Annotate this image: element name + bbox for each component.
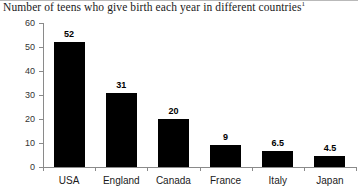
y-axis-tick [39, 71, 43, 72]
y-axis-tick [39, 119, 43, 120]
bar-value-label: 4.5 [324, 143, 337, 153]
title-footnote-marker: 1 [302, 0, 306, 8]
y-axis-tick-label: 0 [30, 162, 35, 172]
category-label: Italy [269, 175, 287, 186]
bar [106, 93, 137, 167]
bar-value-label: 6.5 [271, 138, 284, 148]
y-axis-tick [39, 23, 43, 24]
bar-value-label: 52 [64, 29, 74, 39]
category-label: Canada [156, 175, 191, 186]
chart-title-text: Number of teens who give birth each year… [3, 1, 302, 13]
x-axis-tick [200, 167, 201, 171]
category-label: France [210, 175, 241, 186]
bar-value-label: 20 [168, 106, 178, 116]
y-axis-tick [39, 143, 43, 144]
x-axis-tick [147, 167, 148, 171]
y-axis-tick-label: 10 [25, 138, 35, 148]
category-label: USA [59, 175, 80, 186]
x-axis-tick [304, 167, 305, 171]
chart-figure: Number of teens who give birth each year… [0, 0, 358, 191]
bar [158, 119, 189, 167]
y-axis-tick-label: 60 [25, 18, 35, 28]
bar [54, 42, 85, 167]
y-axis-line [43, 23, 44, 167]
bar [210, 145, 241, 167]
bar [262, 151, 293, 167]
bar [314, 156, 345, 167]
y-axis-tick [39, 47, 43, 48]
x-axis-tick [95, 167, 96, 171]
x-axis-tick [252, 167, 253, 171]
y-axis-tick-label: 30 [25, 90, 35, 100]
plot-area: 0102030405060 52312096.54.5 USAEnglandCa… [43, 23, 356, 167]
category-label: Japan [316, 175, 343, 186]
x-axis-tick [43, 167, 44, 171]
y-axis-tick-label: 40 [25, 66, 35, 76]
bar-value-label: 9 [223, 132, 228, 142]
y-axis-tick-label: 50 [25, 42, 35, 52]
x-axis-tick [356, 167, 357, 171]
y-axis-tick [39, 95, 43, 96]
y-axis-tick-label: 20 [25, 114, 35, 124]
chart-title: Number of teens who give birth each year… [3, 1, 305, 13]
category-label: England [103, 175, 140, 186]
bar-value-label: 31 [116, 80, 126, 90]
